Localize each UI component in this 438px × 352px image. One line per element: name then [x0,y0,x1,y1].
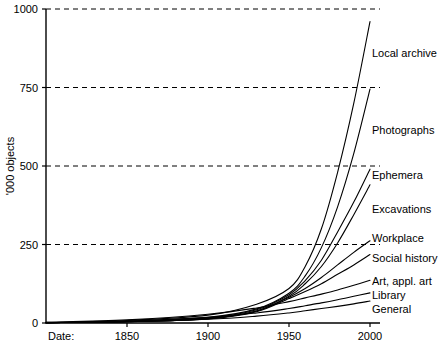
series-labels: Local archivePhotographsEphemeraExcavati… [372,47,438,315]
series-line-excavations [46,185,370,323]
series-label-photographs: Photographs [372,124,435,136]
axis-titles: '000 objectsDate: [4,136,74,342]
series-label-workplace: Workplace [372,232,424,244]
series-line-art-appl-art [46,280,370,322]
x-axis-title: Date: [48,330,74,342]
y-axis-tick-labels: 02505007501000 [14,3,38,329]
series-label-art-appl-art: Art, appl. art [372,275,432,287]
series-label-general: General [372,303,411,315]
chart-container: 02505007501000 1850190019502000 Local ar… [0,0,438,352]
x-axis-tick-labels: 1850190019502000 [115,330,382,342]
x-tick-label-1900: 1900 [196,330,220,342]
series-line-social-history [46,255,370,323]
series-line-photographs [46,89,370,323]
series-label-local-archive: Local archive [372,47,437,59]
series-line-workplace [46,241,370,323]
x-tick-label-2000: 2000 [358,330,382,342]
gridlines [46,9,380,245]
y-tick-label-500: 500 [20,160,38,172]
series-label-ephemera: Ephemera [372,169,424,181]
y-tick-label-1000: 1000 [14,3,38,15]
y-axis-title: '000 objects [4,136,16,195]
series-line-general [46,301,370,323]
series-lines [46,22,370,323]
y-tick-label-0: 0 [32,317,38,329]
line-chart: 02505007501000 1850190019502000 Local ar… [0,0,438,352]
y-tick-label-250: 250 [20,239,38,251]
y-tick-label-750: 750 [20,82,38,94]
x-tick-label-1850: 1850 [115,330,139,342]
series-label-library: Library [372,289,406,301]
series-line-ephemera [46,169,370,323]
axis-ticks [42,9,370,327]
series-label-social-history: Social history [372,252,438,264]
x-tick-label-1950: 1950 [277,330,301,342]
series-label-excavations: Excavations [372,203,432,215]
